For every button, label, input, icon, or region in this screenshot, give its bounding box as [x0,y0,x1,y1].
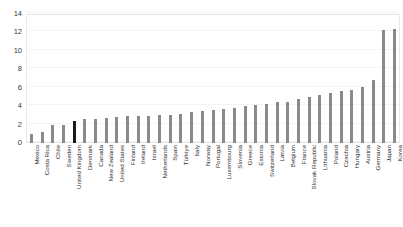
x-axis-tick-label: Hungary [354,145,360,168]
x-axis-tick-label: Slovak Republic [311,145,317,189]
x-axis-tick-label: Czechia [343,145,349,167]
bar [190,112,193,143]
bar [62,125,65,143]
bar [372,80,375,143]
x-axis-tick-label: Israel [151,145,157,160]
x-axis-tick-label: New Zealand [108,145,114,181]
bar [201,111,204,143]
x-axis-tick-label: Ireland [140,145,146,164]
y-axis-tick-label: 4 [18,102,22,110]
x-axis-tick-label: Lithuania [322,145,328,170]
x-axis-tick-label: Spain [172,145,178,161]
y-axis: 02468101214 [0,0,26,227]
bar [297,99,300,143]
bar [286,102,289,143]
x-axis-tick-label: Slovenia [237,145,243,169]
bar [137,116,140,143]
bar [158,115,161,143]
y-axis-tick-label: 6 [18,84,22,92]
bar [350,90,353,143]
x-axis-tick-label: Greece [247,145,253,165]
bar [212,110,215,143]
bar [233,108,236,143]
x-axis-tick-label: Finland [130,145,136,165]
x-axis-tick-label: Germany [375,145,381,170]
y-axis-tick-label: 12 [14,29,22,37]
x-axis-labels: MexicoCosta RicaChileSwedenUnited Kingdo… [26,145,400,227]
bar [51,125,54,143]
bar [73,121,76,143]
x-axis-tick-label: Korea [397,145,403,162]
bar [318,95,321,143]
x-axis-tick-label: Sweden [66,145,72,167]
bar-chart: 02468101214 MexicoCosta RicaChileSwedenU… [0,0,403,227]
gridline [27,12,399,13]
y-axis-tick-label: 2 [18,121,22,129]
bar [126,116,129,143]
bar [265,104,268,143]
bar [169,115,172,143]
bar [94,119,97,143]
x-axis-tick-label: Japan [386,145,392,162]
x-axis-tick-label: Norway [205,145,211,166]
x-axis-tick-label: Türkiye [183,145,189,165]
x-axis-tick-label: Luxembourg [226,145,232,179]
x-axis-tick-label: United States [119,145,125,182]
y-axis-tick-label: 0 [18,139,22,147]
x-axis-tick-label: Netherlands [162,145,168,178]
bar [329,93,332,143]
bar [276,102,279,143]
x-axis-tick-label: Costa Rica [44,145,50,175]
bar [361,87,364,143]
x-axis-tick-label: Canada [98,145,104,167]
bar [41,132,44,143]
x-axis-tick-label: Denmark [87,145,93,170]
x-axis-tick-label: Chile [55,145,61,159]
x-axis-tick-label: United Kingdom [76,145,82,189]
x-axis-tick-label: Portugal [215,145,221,168]
x-axis-tick-label: Austria [365,145,371,164]
bar [308,97,311,143]
bar [179,114,182,143]
x-axis-tick-label: Switzerland [269,145,275,177]
x-axis-tick-label: Italy [194,145,200,156]
y-axis-tick-label: 8 [18,66,22,74]
bar [83,119,86,143]
x-axis-tick-label: Mexico [34,145,40,165]
bar [244,106,247,143]
bar [115,117,118,143]
bars-group [26,14,400,143]
bar [147,116,150,143]
bar [340,91,343,143]
bar [254,105,257,143]
bar [105,118,108,143]
x-axis-tick-label: France [301,145,307,164]
x-axis-tick-label: Estonia [258,145,264,166]
x-axis-tick-label: Poland [333,145,339,164]
x-axis-tick-label: Belgium [290,145,296,167]
bar [393,29,396,143]
y-axis-tick-label: 14 [14,10,22,18]
y-axis-tick-label: 10 [14,47,22,55]
bar [222,109,225,143]
bar [30,134,33,143]
bar [382,30,385,143]
x-axis-tick-label: Latvia [279,145,285,162]
